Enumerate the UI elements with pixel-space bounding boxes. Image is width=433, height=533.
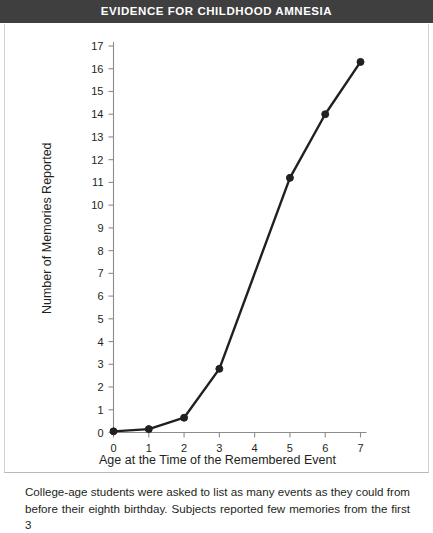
y-tick-label: 17 bbox=[91, 40, 103, 52]
x-axis-title: Age at the Time of the Remembered Event bbox=[5, 454, 430, 467]
y-tick-label: 10 bbox=[91, 199, 103, 211]
figure-title-bar: EVIDENCE FOR CHILDHOOD AMNESIA bbox=[0, 0, 433, 23]
data-point bbox=[322, 111, 329, 118]
y-tick-label: 5 bbox=[97, 313, 103, 325]
series-markers bbox=[110, 58, 364, 434]
y-tick-label: 7 bbox=[97, 267, 103, 279]
data-point bbox=[216, 365, 223, 372]
y-tick-label: 14 bbox=[91, 108, 103, 120]
figure-caption-text: College-age students were asked to list … bbox=[25, 485, 410, 531]
y-tick-label: 3 bbox=[97, 358, 103, 370]
y-tick-label: 16 bbox=[91, 63, 103, 75]
y-tick-label: 1 bbox=[97, 404, 103, 416]
x-tick-label: 7 bbox=[357, 442, 363, 454]
y-tick-label: 0 bbox=[97, 427, 103, 439]
x-tick-label: 5 bbox=[287, 442, 293, 454]
y-tick-label: 11 bbox=[92, 176, 103, 188]
y-tick-label: 15 bbox=[91, 85, 103, 97]
x-axis-ticks: 01234567 bbox=[110, 433, 363, 454]
y-tick-label: 6 bbox=[97, 290, 103, 302]
data-point bbox=[357, 58, 364, 65]
chart-panel: 01234567891011121314151617 01234567 Numb… bbox=[4, 24, 429, 473]
data-point bbox=[286, 174, 293, 181]
page-title: EVIDENCE FOR CHILDHOOD AMNESIA bbox=[101, 6, 332, 18]
figure-caption: College-age students were asked to list … bbox=[25, 484, 410, 533]
y-axis-ticks: 01234567891011121314151617 bbox=[91, 40, 113, 439]
x-tick-label: 0 bbox=[110, 442, 116, 454]
y-tick-label: 2 bbox=[97, 381, 103, 393]
x-tick-label: 2 bbox=[181, 442, 187, 454]
y-tick-label: 9 bbox=[97, 222, 103, 234]
y-tick-label: 8 bbox=[97, 245, 103, 257]
y-tick-label: 4 bbox=[97, 336, 103, 348]
x-tick-label: 4 bbox=[252, 442, 258, 454]
line-chart: 01234567891011121314151617 01234567 bbox=[5, 24, 430, 473]
x-tick-label: 6 bbox=[322, 442, 328, 454]
y-tick-label: 13 bbox=[91, 131, 103, 143]
y-tick-label: 12 bbox=[91, 154, 103, 166]
x-tick-label: 1 bbox=[146, 442, 152, 454]
data-point bbox=[145, 426, 152, 433]
x-tick-label: 3 bbox=[216, 442, 222, 454]
data-point bbox=[110, 428, 117, 435]
y-axis-title: Number of Memories Reported bbox=[41, 113, 54, 343]
data-point bbox=[181, 414, 188, 421]
